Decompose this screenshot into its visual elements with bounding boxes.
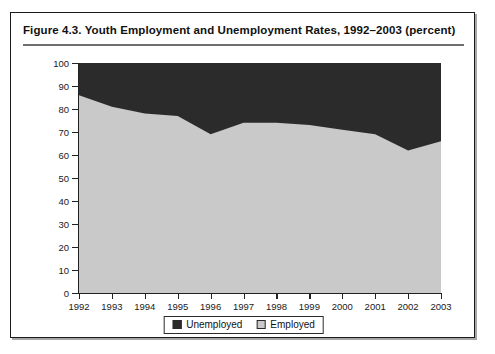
x-tick-mark (276, 294, 277, 299)
y-tick-label: 30 (45, 219, 69, 230)
legend-label-unemployed: Unemployed (186, 319, 242, 330)
y-tick-mark (72, 178, 78, 179)
y-tick-mark (72, 155, 78, 156)
x-tick-mark (375, 294, 376, 299)
x-tick-mark (178, 294, 179, 299)
y-tick-label: 60 (45, 150, 69, 161)
x-tick-label: 1999 (299, 301, 320, 312)
legend-swatch-employed (256, 320, 265, 329)
y-tick-label: 80 (45, 104, 69, 115)
y-tick-label: 0 (45, 288, 69, 299)
y-tick-label: 20 (45, 242, 69, 253)
legend-item-employed: Employed (256, 319, 314, 330)
chart-area-svg (79, 63, 441, 293)
y-tick-mark (72, 63, 78, 64)
x-tick-label: 1998 (266, 301, 287, 312)
y-tick-label: 70 (45, 127, 69, 138)
y-tick-mark (72, 132, 78, 133)
x-tick-label: 2000 (332, 301, 353, 312)
x-tick-label: 1994 (134, 301, 155, 312)
x-tick-label: 1997 (233, 301, 254, 312)
x-tick-label: 1993 (101, 301, 122, 312)
y-tick-label: 50 (45, 173, 69, 184)
x-tick-label: 2001 (365, 301, 386, 312)
x-tick-label: 1996 (200, 301, 221, 312)
y-tick-label: 90 (45, 81, 69, 92)
x-tick-mark (408, 294, 409, 299)
legend-swatch-unemployed (172, 320, 181, 329)
y-tick-mark (72, 293, 78, 294)
x-tick-label: 1992 (68, 301, 89, 312)
x-tick-mark (211, 294, 212, 299)
x-axis-line (78, 293, 442, 294)
y-tick-mark (72, 247, 78, 248)
y-tick-mark (72, 201, 78, 202)
chart-plot-area (79, 63, 441, 293)
y-tick-label: 40 (45, 196, 69, 207)
y-tick-label: 100 (45, 58, 69, 69)
chart-plot-wrapper: 0102030405060708090100 19921993199419951… (11, 13, 476, 339)
x-tick-mark (145, 294, 146, 299)
y-tick-mark (72, 270, 78, 271)
x-tick-mark (79, 294, 80, 299)
y-tick-mark (72, 224, 78, 225)
x-tick-mark (441, 294, 442, 299)
legend-item-unemployed: Unemployed (172, 319, 242, 330)
x-tick-label: 2002 (398, 301, 419, 312)
x-tick-mark (309, 294, 310, 299)
x-tick-label: 2003 (430, 301, 451, 312)
x-tick-mark (244, 294, 245, 299)
y-tick-label: 10 (45, 265, 69, 276)
y-tick-mark (72, 86, 78, 87)
x-tick-mark (342, 294, 343, 299)
chart-legend: Unemployed Employed (163, 316, 324, 334)
x-tick-label: 1995 (167, 301, 188, 312)
x-tick-mark (112, 294, 113, 299)
y-tick-mark (72, 109, 78, 110)
legend-label-employed: Employed (270, 319, 314, 330)
figure-frame: Figure 4.3. Youth Employment and Unemplo… (10, 12, 475, 338)
y-axis-line (78, 63, 79, 294)
